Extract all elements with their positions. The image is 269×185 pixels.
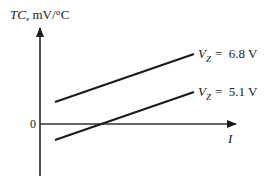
label-vz-6.8: VZ= 6.8 V: [198, 46, 258, 64]
y-axis-label-var: TC: [10, 7, 26, 22]
line-vz-5.1: [55, 92, 194, 140]
label-vz-5.1: VZ= 5.1 V: [198, 84, 258, 102]
origin-label: 0: [30, 117, 36, 131]
tc-vs-current-diagram: TC, mV/°C 0 I VZ= 6.8 V VZ= 5.1 V: [0, 0, 269, 185]
y-axis-label: TC, mV/°C: [10, 7, 69, 22]
x-axis-label: I: [227, 131, 233, 146]
line-vz-6.8: [55, 54, 194, 102]
y-axis-label-unit: , mV/°C: [26, 7, 69, 22]
